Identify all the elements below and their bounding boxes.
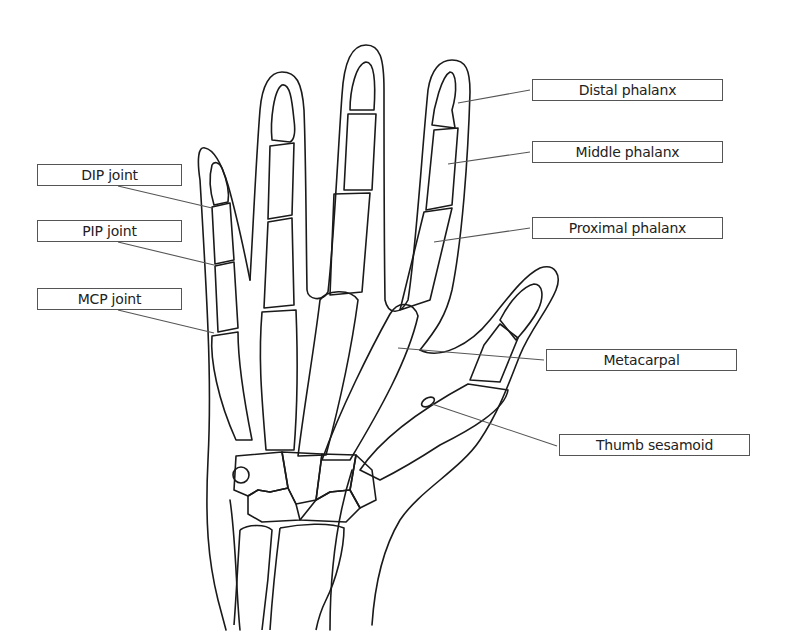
thumb-bones xyxy=(360,284,542,480)
leader-proximal-phalanx xyxy=(434,228,530,242)
hand-outline xyxy=(198,45,558,630)
label-thumb-sesamoid: Thumb sesamoid xyxy=(559,434,750,456)
label-metacarpal: Metacarpal xyxy=(546,349,737,371)
little-finger-bones xyxy=(210,163,252,440)
leader-distal-phalanx xyxy=(458,90,530,103)
label-middle-phalanx: Middle phalanx xyxy=(532,141,723,163)
label-pip-joint: PIP joint xyxy=(37,220,182,242)
leader-mcp-joint xyxy=(118,310,214,333)
forearm-bones xyxy=(234,524,344,630)
carpal-bones xyxy=(233,452,376,522)
label-distal-phalanx: Distal phalanx xyxy=(532,79,723,101)
middle-finger-bones xyxy=(298,62,376,456)
leader-pip-joint xyxy=(118,242,214,265)
ring-finger-bones xyxy=(260,85,297,450)
label-mcp-joint: MCP joint xyxy=(37,288,182,310)
label-proximal-phalanx: Proximal phalanx xyxy=(532,217,723,239)
leader-middle-phalanx xyxy=(448,152,530,164)
label-dip-joint: DIP joint xyxy=(37,164,182,186)
leader-dip-joint xyxy=(118,186,212,208)
leader-lines xyxy=(118,90,557,446)
